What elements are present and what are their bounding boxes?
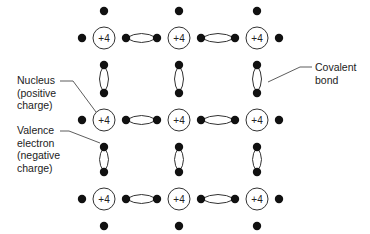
covalent-bond [201,195,235,204]
valence-electron-dot [253,143,261,151]
valence-electron-dot [100,143,108,151]
covalent-bond [201,116,235,125]
valence-electron-dot [253,7,261,15]
valence-electron-dot [153,116,161,124]
valence-electron-dot [78,34,86,42]
nucleus-charge-text: +4 [173,33,185,44]
valence-electron-dot [231,195,239,203]
valence-electron-dot [153,34,161,42]
nucleus-charge-text: +4 [173,115,185,126]
valence-electron-dot [231,116,239,124]
nucleus-charge-text: +4 [98,194,110,205]
valence-electron-dot [175,89,183,97]
covalent-bond-label: Covalent bond [315,61,356,86]
valence-electron-dot [197,195,205,203]
covalent-bond [201,34,235,43]
lattice-drawing: +4+4+4+4+4+4+4+4+4 [0,0,370,234]
covalent-bond [126,34,157,43]
valence-electron-dot [275,34,283,42]
valence-electron-dot [122,116,130,124]
covalent-bond [126,116,157,125]
valence-electron-dot [100,168,108,176]
nucleus-charge-text: +4 [251,115,263,126]
valence-electron-dot [175,143,183,151]
valence-electron-dot [253,222,261,230]
valence-electron-dot [231,34,239,42]
valence-electron-dot [100,7,108,15]
nucleus-label: Nucleus (positive charge) [17,74,56,112]
valence-electron-label: Valence electron (negative charge) [17,124,60,174]
valence-electron-dot [175,61,183,69]
valence-electron-dot [100,61,108,69]
nucleus-charge-text: +4 [98,115,110,126]
nucleus-charge-text: +4 [251,33,263,44]
valence-electron-dot [275,195,283,203]
valence-electron-dot [197,34,205,42]
valence-electron-dot [100,222,108,230]
valence-electron-dot [100,89,108,97]
nucleus-charge-text: +4 [251,194,263,205]
valence-electron-dot [122,34,130,42]
valence-electron-dot [253,61,261,69]
valence-electron-dot [197,116,205,124]
valence-electron-dot [253,89,261,97]
valence-electron-dot [175,222,183,230]
valence-electron-dot [153,195,161,203]
nucleus-charge-text: +4 [98,33,110,44]
valence-electron-dot [78,195,86,203]
nucleus-leader-line [60,81,96,112]
valence-electron-dot [175,168,183,176]
valence-electron-dot [253,168,261,176]
silicon-crystal-lattice-diagram: +4+4+4+4+4+4+4+4+4 Nucleus (positive cha… [0,0,370,234]
valence-leader-line [60,131,100,143]
valence-electron-dot [122,195,130,203]
covalent-bond [126,195,157,204]
valence-electron-dot [175,7,183,15]
valence-electron-dot [275,116,283,124]
nucleus-charge-text: +4 [173,194,185,205]
valence-electron-dot [78,116,86,124]
covalent-leader-line [268,67,312,82]
